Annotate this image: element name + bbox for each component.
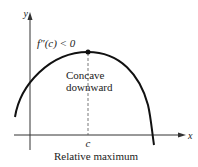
point-label-c: c xyxy=(86,137,91,149)
caption: Relative maximum xyxy=(54,150,138,162)
y-axis-label: y xyxy=(23,8,29,19)
diagram-svg: y x f″(c) < 0 Concave downward c Relativ… xyxy=(0,0,198,167)
concavity-diagram: y x f″(c) < 0 Concave downward c Relativ… xyxy=(0,0,198,167)
x-axis-arrow-icon xyxy=(178,133,186,138)
maximum-point xyxy=(86,50,91,55)
annotation-line-1: Concave xyxy=(66,69,105,81)
concave-down-curve xyxy=(15,52,154,145)
annotation-line-2: downward xyxy=(66,81,113,93)
x-axis-label: x xyxy=(187,130,193,141)
condition-label: f″(c) < 0 xyxy=(37,37,76,50)
y-axis-arrow-icon xyxy=(28,12,33,20)
